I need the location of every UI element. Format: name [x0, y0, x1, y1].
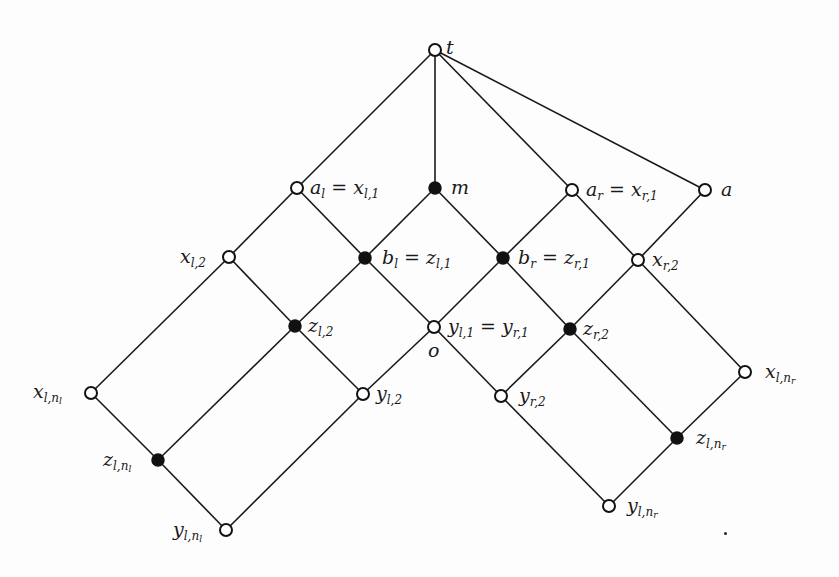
label-o_label: o	[428, 341, 439, 360]
node-label-z_l2: zl,2	[308, 316, 333, 338]
node-label-y_l2: yl,2	[376, 384, 402, 406]
node-m	[429, 182, 441, 194]
nodes-layer	[85, 44, 751, 536]
edge-z_l2-z_lnl	[158, 326, 295, 460]
node-t	[429, 44, 441, 56]
node-label-y_lnl: yl,nl	[173, 520, 202, 544]
lattice-diagram: tal = xl,1mar = xr,1axl,2bl = zl,1br = z…	[0, 0, 839, 577]
edge-y_r2-y_lnr	[501, 396, 609, 506]
node-z_r2	[564, 323, 576, 335]
node-label-m: m	[451, 178, 469, 197]
node-label-o: yl,1 = yr,1	[448, 317, 529, 339]
node-label-a_l: al = xl,1	[310, 178, 379, 200]
node-z_lnl	[152, 454, 164, 466]
edge-t-a_r	[435, 50, 572, 190]
stray-dot	[724, 532, 727, 535]
node-label-z_lnr: zl,nr	[696, 428, 726, 452]
node-a_l	[291, 182, 303, 194]
node-y_r2	[495, 390, 507, 402]
node-b_r	[497, 252, 509, 264]
node-x_lnr	[739, 366, 751, 378]
node-label-a_r: ar = xr,1	[586, 180, 658, 202]
node-label-x_lnl: xl,nl	[33, 382, 62, 406]
edge-a_l-x_l2	[229, 188, 297, 257]
node-label-b_l: bl = zl,1	[382, 248, 451, 270]
lattice-graph	[0, 0, 839, 577]
node-label-x_l2: xl,2	[180, 247, 206, 269]
edge-x_l2-x_lnl	[91, 257, 229, 393]
node-x_lnl	[85, 387, 97, 399]
node-a	[699, 184, 711, 196]
node-label-x_r2: xr,2	[652, 250, 679, 272]
node-label-x_lnr: xl,nr	[765, 362, 795, 386]
node-y_lnl	[220, 524, 232, 536]
edge-y_l2-y_lnl	[226, 394, 363, 530]
node-z_l2	[289, 320, 301, 332]
node-label-t: t	[446, 38, 454, 57]
node-label-y_r2: yr,2	[519, 386, 546, 408]
edge-t-a	[435, 50, 705, 190]
node-x_l2	[223, 251, 235, 263]
node-label-z_lnl: zl,nl	[103, 450, 131, 474]
node-b_l	[359, 252, 371, 264]
edge-x_l2-z_l2	[229, 257, 295, 326]
edge-z_r2-z_lnr	[570, 329, 677, 438]
node-label-z_r2: zr,2	[583, 319, 609, 341]
node-label-y_lnr: yl,nr	[627, 496, 657, 520]
node-label-a: a	[721, 180, 732, 199]
node-o	[428, 321, 440, 333]
node-label-b_r: br = zr,1	[518, 248, 590, 270]
node-a_r	[566, 184, 578, 196]
edge-x_r2-x_lnr	[638, 260, 745, 372]
node-y_lnr	[603, 500, 615, 512]
node-z_lnr	[671, 432, 683, 444]
edges-layer	[91, 50, 745, 530]
node-x_r2	[632, 254, 644, 266]
node-y_l2	[357, 388, 369, 400]
edge-t-a_l	[297, 50, 435, 188]
